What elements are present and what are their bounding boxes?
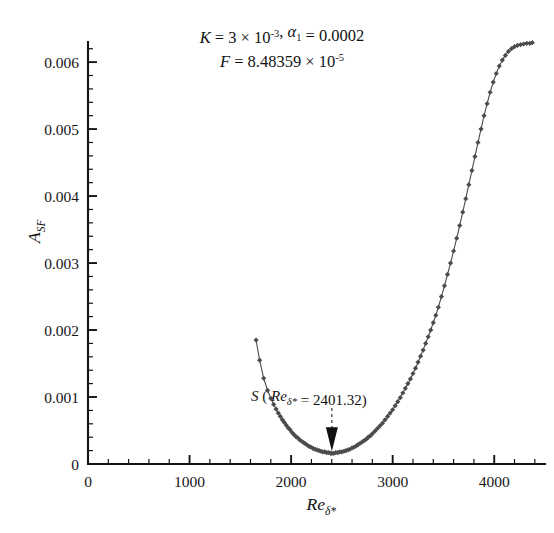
data-point-marker — [448, 260, 453, 265]
y-tick-label: 0.006 — [44, 54, 79, 71]
data-point-marker — [418, 354, 423, 359]
figure-container: 0100020003000400000.0010.0020.0030.0040.… — [0, 0, 554, 533]
data-point-marker — [485, 101, 490, 106]
data-point-marker — [497, 64, 502, 69]
data-point-marker — [405, 381, 410, 386]
x-tick-label: 4000 — [479, 473, 510, 490]
annotation-arrowhead — [326, 427, 338, 451]
annotation-text: S ( Reδ* = 2401.32) — [251, 388, 367, 409]
data-point-marker — [395, 399, 400, 404]
data-point-marker — [423, 341, 428, 346]
data-point-marker — [475, 140, 480, 145]
y-tick-label: 0.002 — [44, 322, 79, 339]
minimum-point-label: S ( Reδ* = 2401.32) — [251, 388, 367, 451]
x-axis-ticks: 01000200030004000 — [84, 455, 535, 490]
y-axis-ticks: 00.0010.0020.0030.0040.0050.006 — [44, 49, 97, 473]
chart-title-line: K = 3 × 10-3, α1 = 0.0002 — [199, 22, 365, 47]
data-point-marker — [426, 334, 431, 339]
x-tick-label: 0 — [84, 473, 92, 490]
data-point-marker — [433, 313, 438, 318]
data-point-marker — [445, 272, 450, 277]
x-tick-label: 3000 — [377, 473, 408, 490]
scatter-line-chart: 0100020003000400000.0010.0020.0030.0040.… — [0, 0, 554, 533]
data-point-marker — [466, 182, 471, 187]
data-point-marker — [410, 371, 415, 376]
x-tick-label: 2000 — [276, 473, 307, 490]
x-axis-title: Reδ* — [306, 494, 337, 517]
y-tick-label: 0.004 — [44, 188, 79, 205]
data-point-marker — [481, 113, 486, 118]
data-point-marker — [491, 80, 496, 85]
data-point-marker — [494, 71, 499, 76]
data-point-marker — [478, 126, 483, 131]
data-point-marker — [460, 210, 465, 215]
data-point-marker — [408, 376, 413, 381]
y-tick-label: 0.005 — [44, 121, 79, 138]
data-point-marker — [261, 376, 266, 381]
data-point-marker — [436, 305, 441, 310]
data-point-marker — [398, 395, 403, 400]
data-point-marker — [393, 403, 398, 408]
data-point-marker — [431, 320, 436, 325]
data-point-marker — [439, 294, 444, 299]
y-tick-label: 0 — [71, 456, 79, 473]
data-point-marker — [273, 406, 278, 411]
data-point-marker — [253, 337, 258, 342]
data-point-marker — [413, 366, 418, 371]
data-point-marker — [472, 154, 477, 159]
x-tick-label: 1000 — [174, 473, 205, 490]
data-point-marker — [469, 168, 474, 173]
data-point-marker — [400, 390, 405, 395]
data-point-marker — [403, 386, 408, 391]
y-axis-title: ASF — [24, 219, 47, 244]
data-point-marker — [451, 248, 456, 253]
data-point-marker — [415, 360, 420, 365]
data-point-marker — [442, 283, 447, 288]
data-point-marker — [488, 90, 493, 95]
data-point-marker — [428, 327, 433, 332]
chart-title: K = 3 × 10-3, α1 = 0.0002F = 8.48359 × 1… — [199, 22, 365, 71]
data-point-marker — [463, 196, 468, 201]
y-tick-label: 0.001 — [44, 389, 79, 406]
data-point-marker — [421, 348, 426, 353]
data-series — [253, 40, 534, 456]
data-point-marker — [257, 358, 262, 363]
data-point-marker — [454, 236, 459, 241]
chart-title-line: F = 8.48359 × 10-5 — [219, 52, 344, 71]
data-point-marker — [457, 223, 462, 228]
y-tick-label: 0.003 — [44, 255, 79, 272]
